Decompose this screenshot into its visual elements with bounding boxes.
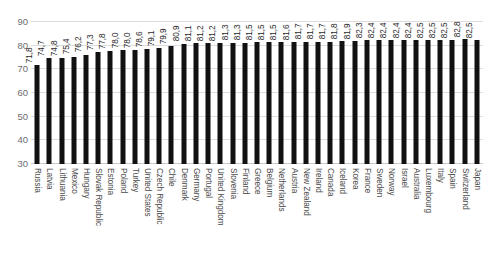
bar[interactable] [71, 57, 76, 164]
bar-group[interactable]: 82,5 [434, 22, 446, 164]
x-axis-category: Slovenia [226, 166, 238, 252]
x-axis-category-label: Germany [191, 168, 199, 201]
bar-group[interactable]: 82,5 [471, 22, 483, 164]
bar-value-label: 78,6 [136, 31, 144, 47]
bar[interactable] [352, 41, 357, 164]
bar-value-label: 79,9 [160, 28, 168, 44]
bar-group[interactable]: 82,4 [385, 22, 397, 164]
y-axis-tick-label: 50 [17, 112, 28, 122]
x-axis-category-label: Australia [411, 168, 419, 199]
bar[interactable] [438, 40, 443, 164]
bar[interactable] [291, 42, 296, 164]
bar-group[interactable]: 79,9 [165, 22, 177, 164]
x-axis-category: New Zealand [300, 166, 312, 252]
plot-area: 71,874,774,875,476,277,377,878,078,078,6… [31, 22, 483, 164]
x-axis-category-label: Ireland [313, 168, 321, 193]
bar-value-label: 81,7 [294, 24, 302, 40]
bar[interactable] [242, 43, 247, 164]
bar-group[interactable]: 81,2 [214, 22, 226, 164]
x-axis-category-label: Poland [118, 168, 126, 193]
bar[interactable] [35, 65, 40, 164]
bar-group[interactable]: 82,4 [373, 22, 385, 164]
bar[interactable] [132, 50, 137, 164]
bar-group[interactable]: 80,9 [178, 22, 190, 164]
bar-group[interactable]: 82,5 [446, 22, 458, 164]
x-axis-category: Mexico [68, 166, 80, 252]
bar-value-label: 81,6 [282, 24, 290, 40]
bar-value-label: 82,4 [380, 22, 388, 38]
bar[interactable] [316, 42, 321, 164]
bar[interactable] [328, 42, 333, 164]
x-axis-category: Norway [385, 166, 397, 252]
bar[interactable] [59, 58, 64, 164]
bar[interactable] [120, 50, 125, 164]
x-axis-category: Portugal [202, 166, 214, 252]
bar-group[interactable]: 81,9 [349, 22, 361, 164]
bar[interactable] [230, 43, 235, 164]
x-axis-category: Poland [117, 166, 129, 252]
bar[interactable] [206, 43, 211, 164]
bar[interactable] [169, 46, 174, 164]
x-axis-category: Finland [239, 166, 251, 252]
bar-group[interactable]: 81,6 [288, 22, 300, 164]
bar[interactable] [47, 58, 52, 164]
x-axis-category: Slovak Republic [92, 166, 104, 252]
bar[interactable] [83, 55, 88, 164]
bar[interactable] [389, 40, 394, 164]
bar[interactable] [145, 49, 150, 164]
x-axis-category-label: Finland [240, 168, 248, 195]
bar[interactable] [462, 39, 467, 164]
bar[interactable] [401, 40, 406, 164]
bar-group[interactable]: 81,3 [226, 22, 238, 164]
bar-group[interactable]: 81,5 [275, 22, 287, 164]
bar-group[interactable]: 81,2 [202, 22, 214, 164]
bar[interactable] [181, 44, 186, 164]
bar-value-label: 75,4 [62, 39, 70, 55]
bar[interactable] [377, 40, 382, 164]
x-axis-category-label: Luxembourg [423, 168, 431, 213]
bar-group[interactable]: 81,3 [239, 22, 251, 164]
bar[interactable] [267, 42, 272, 164]
x-axis-category: Turkey [129, 166, 141, 252]
bar-group[interactable]: 81,1 [190, 22, 202, 164]
bar[interactable] [364, 40, 369, 164]
bar[interactable] [254, 42, 259, 164]
bar[interactable] [218, 43, 223, 164]
bar[interactable] [193, 43, 198, 164]
bar[interactable] [413, 40, 418, 164]
bar-group[interactable]: 81,8 [336, 22, 348, 164]
bar-value-label: 82,4 [392, 22, 400, 38]
bar-group[interactable]: 82,4 [410, 22, 422, 164]
bar[interactable] [474, 40, 479, 164]
x-axis-category-label: Canada [326, 168, 334, 196]
x-axis-category: Lithuania [55, 166, 67, 252]
bar[interactable] [96, 52, 101, 164]
bar[interactable] [279, 42, 284, 164]
x-axis-category: Iceland [336, 166, 348, 252]
bar-group[interactable]: 81,5 [251, 22, 263, 164]
bar-group[interactable]: 82,5 [422, 22, 434, 164]
bar-value-label: 76,2 [75, 37, 83, 53]
bar-group[interactable]: 81,7 [324, 22, 336, 164]
x-axis-category: Hungary [80, 166, 92, 252]
bar-group[interactable]: 81,7 [300, 22, 312, 164]
bar[interactable] [108, 51, 113, 164]
bar-group[interactable]: 82,8 [459, 22, 471, 164]
bar[interactable] [450, 40, 455, 164]
bar-group[interactable]: 81,7 [312, 22, 324, 164]
bar-group[interactable]: 81,5 [263, 22, 275, 164]
bar-value-label: 82,5 [441, 22, 449, 38]
x-axis-category-label: Slovenia [228, 168, 236, 199]
bar[interactable] [157, 48, 162, 164]
x-axis-category-label: Chile [167, 168, 175, 186]
x-axis-category-label: Israel [399, 168, 407, 188]
bar-value-label: 81,7 [319, 24, 327, 40]
bar-group[interactable]: 82,3 [361, 22, 373, 164]
bar[interactable] [303, 42, 308, 164]
bar-value-label: 81,2 [209, 25, 217, 41]
bar-group[interactable]: 82,4 [397, 22, 409, 164]
bar-value-label: 80,9 [172, 26, 180, 42]
bar[interactable] [340, 41, 345, 164]
bar[interactable] [426, 40, 431, 164]
x-axis-category: Belgium [263, 166, 275, 252]
